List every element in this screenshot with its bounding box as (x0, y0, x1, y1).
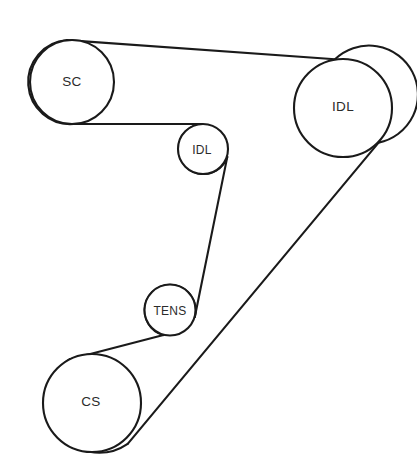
pulley-label-tensioner: TENS (153, 304, 186, 318)
pulley-label-idler-center: IDL (192, 143, 212, 157)
belt-span-tensioner-to-idler-center (195, 157, 228, 317)
belt-diagram-canvas: SC IDL IDL TENS CS (0, 0, 417, 470)
belt-span-sc-to-idler-right-top (67, 40, 335, 59)
pulley-label-sc: SC (62, 74, 81, 89)
belt-routing-diagram: SC IDL IDL TENS CS (0, 0, 417, 470)
pulley-label-cs: CS (81, 394, 100, 409)
pulley-label-idler-right: IDL (332, 99, 354, 114)
